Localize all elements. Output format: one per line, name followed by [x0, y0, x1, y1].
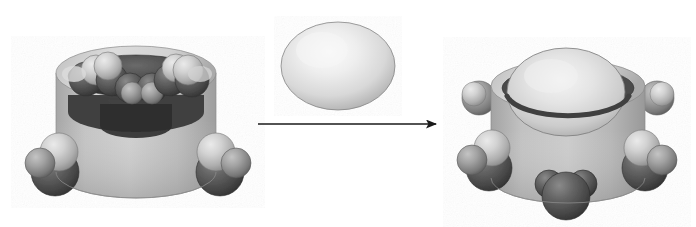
side-substituent-sphere: [462, 82, 486, 106]
guest-ellipsoid: [281, 22, 395, 110]
rim-substituent-sphere: [121, 82, 143, 104]
rim-highlight: [188, 66, 212, 82]
bound-guest-specular-highlight: [524, 59, 578, 93]
bound-guest-ellipsoid: [507, 48, 625, 136]
lower-substituent-sphere: [647, 145, 677, 175]
lower-substituent-sphere: [457, 145, 487, 175]
scene-stage: [0, 0, 696, 227]
lower-substituent-sphere: [25, 148, 55, 178]
side-substituent-sphere: [650, 82, 674, 106]
lower-substituent-sphere: [542, 172, 590, 220]
molecular-scheme-svg: [0, 0, 696, 227]
guest-specular-highlight: [296, 32, 348, 68]
free-guest-group: [281, 22, 395, 110]
rim-highlight: [62, 66, 86, 82]
lower-substituent-sphere: [221, 148, 251, 178]
rim-substituent-sphere: [94, 52, 122, 80]
figure-canvas: Host-guest inclusion complex formation s…: [0, 0, 696, 227]
